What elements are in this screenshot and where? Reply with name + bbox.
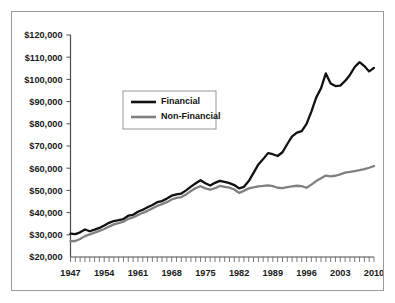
y-tick-label: $90,000 [29,97,62,107]
legend-label-non-financial: Non-Financial [161,111,221,121]
y-tick-label: $100,000 [24,75,62,85]
x-tick-label: 1954 [94,268,115,278]
x-tick-label: 1982 [229,268,249,278]
chart-figure: $20,000$30,000$40,000$50,000$60,000$70,0… [11,11,384,291]
x-tick-label: 1961 [128,268,148,278]
x-tick-label: 1989 [263,268,283,278]
y-tick-label: $120,000 [24,30,62,40]
y-tick-label: $20,000 [29,252,62,262]
y-tick-label: $60,000 [29,164,62,174]
x-tick-label: 1996 [296,268,316,278]
y-tick-label: $70,000 [29,141,62,151]
x-tick-label: 1947 [60,268,80,278]
y-tick-label: $30,000 [29,230,62,240]
y-tick-label: $110,000 [25,53,63,63]
chart-legend: FinancialNon-Financial [123,91,221,129]
line-chart: $20,000$30,000$40,000$50,000$60,000$70,0… [12,12,383,290]
y-tick-label: $80,000 [29,119,62,129]
x-tick-label: 1975 [195,268,215,278]
y-tick-label: $40,000 [29,208,62,218]
legend-label-financial: Financial [161,96,200,106]
plot-background [12,12,383,290]
x-tick-label: 2003 [330,268,350,278]
x-tick-label: 2010 [364,268,383,278]
y-tick-label: $50,000 [29,186,62,196]
x-tick-label: 1968 [161,268,181,278]
